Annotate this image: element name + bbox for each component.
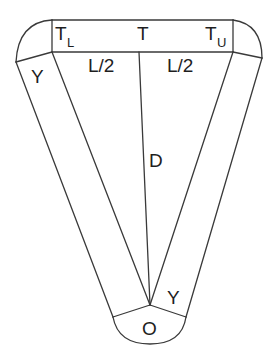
right-band-divider-top bbox=[233, 52, 262, 58]
label-t-center: T bbox=[137, 23, 149, 44]
inner-left-edge bbox=[52, 52, 150, 305]
label-t-lower-sub: L bbox=[67, 35, 74, 50]
label-origin-o: O bbox=[142, 318, 157, 339]
left-band-divider-bottom bbox=[113, 305, 150, 317]
label-right-half-length: L/2 bbox=[167, 55, 193, 76]
label-t-upper-main: T bbox=[205, 23, 217, 44]
label-right-band-y: Y bbox=[167, 287, 180, 308]
label-left-band-y: Y bbox=[31, 66, 44, 87]
inner-right-edge bbox=[150, 52, 233, 305]
center-distance-line bbox=[139, 52, 150, 305]
label-t-lower-main: T bbox=[55, 23, 67, 44]
left-band-divider-top bbox=[16, 52, 52, 62]
diagram-canvas: T L T T U L/2 L/2 Y Y D O bbox=[0, 0, 275, 364]
label-distance-d: D bbox=[149, 150, 163, 171]
outer-right-edge bbox=[186, 58, 262, 317]
outer-left-edge bbox=[16, 62, 113, 317]
top-left-corner-arc bbox=[16, 20, 52, 62]
label-left-half-length: L/2 bbox=[88, 55, 114, 76]
label-t-upper-sub: U bbox=[217, 35, 226, 50]
